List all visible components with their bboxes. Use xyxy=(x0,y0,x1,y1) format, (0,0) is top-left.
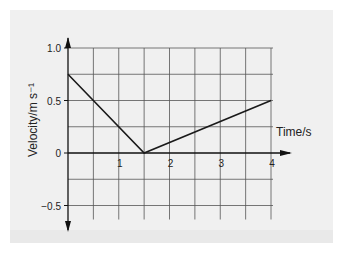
y-tick-label: −0.5 xyxy=(41,201,61,212)
tick-labels: 12341.00.50−0.5 xyxy=(41,43,275,212)
x-axis-arrow-icon xyxy=(280,150,292,156)
velocity-time-chart: 12341.00.50−0.5 Time/s Velocity/m s⁻¹ xyxy=(0,0,341,253)
y-axis-up-arrow-icon xyxy=(65,37,71,48)
x-tick-label: 2 xyxy=(168,158,174,169)
x-tick-label: 3 xyxy=(218,158,224,169)
y-tick-label: 0 xyxy=(55,148,61,159)
x-axis-title: Time/s xyxy=(276,125,312,139)
y-tick-label: 0.5 xyxy=(47,96,61,107)
x-tick-label: 1 xyxy=(117,158,123,169)
grid-lines xyxy=(68,48,273,220)
y-axis-down-arrow-icon xyxy=(65,221,71,232)
x-tick-label: 4 xyxy=(269,158,275,169)
y-axis-title: Velocity/m s⁻¹ xyxy=(26,83,40,157)
axes xyxy=(64,37,292,232)
y-tick-label: 1.0 xyxy=(47,43,61,54)
